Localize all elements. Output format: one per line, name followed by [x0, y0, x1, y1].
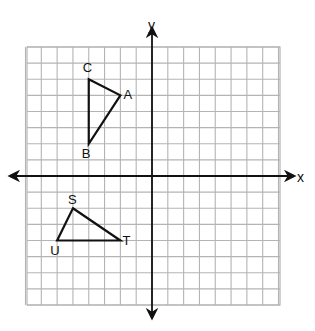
vertex-label-a: A: [123, 87, 132, 102]
coordinate-plane-diagram: x y CABSTU: [0, 0, 315, 331]
vertex-label-u: U: [50, 243, 59, 258]
coordinate-plane: x y CABSTU: [0, 0, 315, 331]
vertex-label-s: S: [68, 192, 77, 207]
y-axis-label: y: [148, 17, 155, 33]
x-axis-label: x: [297, 169, 304, 185]
vertex-label-t: T: [122, 233, 130, 248]
vertex-label-c: C: [83, 60, 92, 75]
vertex-label-b: B: [82, 146, 91, 161]
